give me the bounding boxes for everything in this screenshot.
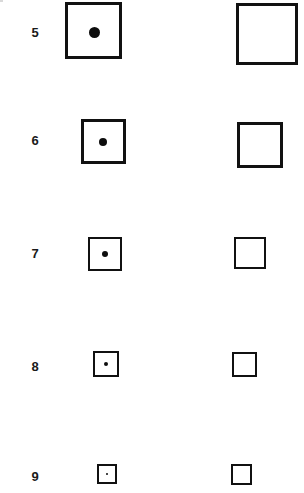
row-label-9: 9: [15, 470, 55, 483]
empty-square-row-9: [231, 464, 252, 485]
figure-canvas: 56789: [0, 0, 304, 493]
figure-row: 9: [0, 0, 304, 493]
